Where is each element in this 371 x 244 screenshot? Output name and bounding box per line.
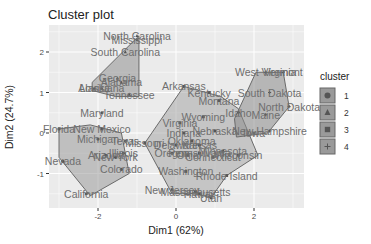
cluster-plot: Cluster plot FloridaNew MexicoMarylandMi… bbox=[0, 0, 371, 244]
point-label: Nevada bbox=[45, 155, 81, 167]
point-label: Utah bbox=[200, 192, 222, 204]
point-label: Colorado bbox=[100, 163, 143, 175]
chart-title: Cluster plot bbox=[48, 7, 114, 22]
point-label: South Carolina bbox=[91, 46, 161, 58]
point-label: Montana bbox=[198, 95, 239, 107]
legend-label: 3 bbox=[344, 125, 349, 135]
point-label: Arizona bbox=[88, 149, 124, 161]
point-label: Mississippi bbox=[112, 34, 163, 46]
legend-title: cluster bbox=[320, 71, 350, 82]
x-tick-label: -2 bbox=[94, 212, 102, 221]
point-label: Iowa bbox=[243, 127, 265, 139]
y-tick-label: 2 bbox=[40, 48, 45, 57]
x-tick-label: 2 bbox=[252, 212, 257, 221]
point-label: Rhode Island bbox=[196, 170, 258, 182]
point-label: Maryland bbox=[80, 107, 123, 119]
legend-label: 2 bbox=[344, 108, 349, 118]
x-axis-ticks: -202 bbox=[94, 208, 256, 221]
point-label: Maine bbox=[251, 109, 280, 121]
legend-label: 1 bbox=[344, 91, 349, 101]
point-label: Idaho bbox=[225, 107, 251, 119]
y-axis-title: Dim2 (24.7%) bbox=[3, 85, 15, 149]
point-label: Tennessee bbox=[104, 89, 155, 101]
point-label: Minnesota bbox=[199, 145, 248, 157]
x-axis-title: Dim1 (62%) bbox=[148, 224, 203, 236]
point-label: South Dakota bbox=[238, 87, 302, 99]
point-label: California bbox=[64, 188, 109, 200]
x-tick-label: 0 bbox=[174, 212, 179, 221]
point-label: Vermont bbox=[264, 66, 303, 78]
y-tick-label: 0 bbox=[40, 129, 45, 138]
y-tick-label: 1 bbox=[40, 89, 45, 98]
legend: cluster 1234 bbox=[320, 71, 350, 154]
y-tick-label: -1 bbox=[37, 170, 45, 179]
legend-label: 4 bbox=[344, 142, 349, 152]
